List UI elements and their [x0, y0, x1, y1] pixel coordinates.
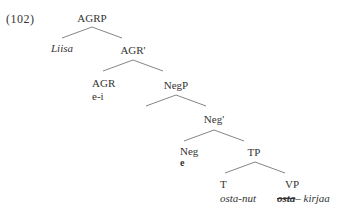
vp-dash: – [295, 192, 301, 204]
node-neg-word: e [180, 157, 184, 169]
edge-tp-vp [255, 162, 285, 173]
node-agrp: AGRP [77, 12, 106, 24]
node-neg: Neg [180, 145, 198, 157]
edge-agrbar-negp [133, 60, 163, 71]
node-tp: TP [248, 146, 261, 158]
vp-trace-word: osta [277, 192, 295, 204]
edge-negp-left [146, 95, 176, 106]
edge-tp-t [225, 162, 255, 173]
edge-agrbar-agr [103, 60, 133, 71]
edge-negbar-tp [214, 130, 244, 141]
node-t-word: osta-nut [220, 192, 256, 204]
edge-agrp-liisa [62, 27, 92, 38]
node-vp-words: osta– kirjaa [277, 192, 330, 204]
node-neg-bar: Neg' [204, 113, 224, 125]
vp-object-word: kirjaa [304, 192, 330, 204]
node-agr: AGR [92, 77, 115, 89]
node-t: T [220, 178, 227, 190]
edge-agrp-agrbar [92, 27, 122, 38]
node-agr-bar: AGR' [120, 44, 145, 56]
node-negp: NegP [164, 79, 188, 91]
edge-negbar-neg [184, 130, 214, 141]
node-liisa: Liisa [51, 42, 73, 54]
node-vp: VP [285, 178, 299, 190]
node-agr-word: e-i [92, 90, 104, 102]
edge-negp-negbar [176, 95, 206, 106]
